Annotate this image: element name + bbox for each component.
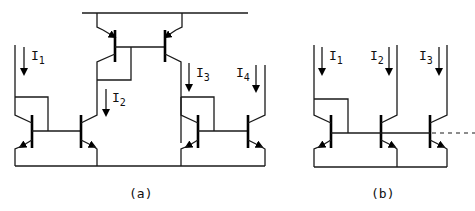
- current-i1-a: I1: [24, 47, 45, 72]
- svg-text:I3: I3: [196, 65, 210, 83]
- current-i2-b: I2: [370, 47, 389, 72]
- caption-a: (a): [129, 186, 152, 201]
- caption-b: (b): [371, 186, 394, 201]
- svg-text:I3: I3: [419, 48, 433, 66]
- current-i4-a: I4: [236, 65, 256, 89]
- transistor-q2-npn: [81, 80, 97, 166]
- current-i1-b: I1: [322, 47, 343, 72]
- subfigure-a: I1 I2 I3 I4 (a): [15, 13, 265, 201]
- svg-text:I1: I1: [329, 48, 343, 66]
- current-i2-a: I2: [106, 89, 126, 113]
- svg-text:I2: I2: [370, 48, 384, 66]
- svg-text:I4: I4: [236, 65, 250, 83]
- circuit-figure: I1 I2 I3 I4 (a): [0, 0, 475, 211]
- transistor-q6-pnp: [165, 13, 182, 143]
- subfigure-b: I1 I2 I3 (b): [314, 45, 475, 201]
- current-i3-a: I3: [189, 63, 210, 88]
- svg-text:I1: I1: [31, 48, 45, 66]
- transistor-b1-npn: [314, 45, 348, 167]
- svg-text:I2: I2: [112, 90, 126, 108]
- current-i3-b: I3: [419, 47, 439, 72]
